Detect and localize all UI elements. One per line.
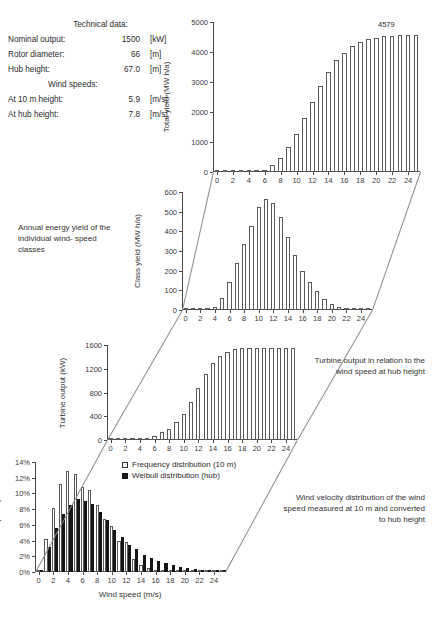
y-tick-mark xyxy=(210,52,213,53)
x-tick-mark xyxy=(186,310,187,313)
x-tick-mark xyxy=(273,310,274,313)
tech-label-rotor-diameter: Rotor diameter: xyxy=(8,50,100,59)
y-tick-label: 200 xyxy=(143,266,177,275)
x-tick-mark xyxy=(328,172,329,175)
x-tick-mark xyxy=(313,172,314,175)
y-tick-mark xyxy=(104,416,107,417)
x-tick-mark xyxy=(155,440,156,443)
x-tick-mark xyxy=(265,172,266,175)
bar xyxy=(374,38,379,172)
x-tick-mark xyxy=(376,172,377,175)
x-tick-mark xyxy=(361,310,362,313)
bar xyxy=(406,35,411,172)
tech-row-nominal-output: Nominal output: 1500 [kW] xyxy=(8,35,193,50)
tech-label-hub-height: Hub height: xyxy=(8,65,100,74)
x-tick-mark xyxy=(317,310,318,313)
bar xyxy=(174,422,178,440)
y-tick-label: 400 xyxy=(68,412,102,421)
y-tick-label: 2000 xyxy=(174,108,208,117)
y-tick-label: 300 xyxy=(143,247,177,256)
bar xyxy=(160,432,164,440)
bar xyxy=(150,558,153,572)
bar xyxy=(359,308,363,310)
x-tick-mark xyxy=(125,440,126,443)
bar xyxy=(216,570,219,572)
bar xyxy=(128,545,131,573)
y-tick-label: 3000 xyxy=(174,78,208,87)
bar xyxy=(204,374,208,441)
bar xyxy=(235,263,239,310)
bar xyxy=(262,170,267,172)
bar xyxy=(326,72,331,173)
bar xyxy=(40,570,43,572)
y-tick-mark xyxy=(32,493,35,494)
x-tick-mark xyxy=(213,440,214,443)
legend-swatch-frequency xyxy=(122,462,128,468)
bar xyxy=(191,308,195,310)
x-tick-mark xyxy=(39,572,40,575)
y-tick-mark xyxy=(32,509,35,510)
x-tick-mark xyxy=(198,440,199,443)
x-tick-mark xyxy=(303,310,304,313)
bar xyxy=(123,438,127,440)
bar xyxy=(201,570,204,572)
y-tick-label: 1200 xyxy=(68,364,102,373)
x-tick-mark xyxy=(346,310,347,313)
bar xyxy=(300,271,304,310)
bar xyxy=(227,282,231,310)
x-tick-mark xyxy=(199,572,200,575)
wind-speeds-heading-text: Wind speeds: xyxy=(48,80,98,89)
bar xyxy=(291,348,295,440)
bar xyxy=(358,42,363,172)
note-turbine-output: Turbine output in relation to the wind s… xyxy=(305,355,425,377)
legend-label-frequency: Frequency distribution (10 m) xyxy=(132,459,236,470)
y-tick-label: 0 xyxy=(68,436,102,445)
bar xyxy=(196,388,200,440)
bar xyxy=(270,165,275,172)
x-tick-mark xyxy=(233,172,234,175)
x-tick-mark xyxy=(281,172,282,175)
x-tick-mark xyxy=(126,572,127,575)
bar xyxy=(286,237,290,310)
plot-frame xyxy=(182,192,372,310)
y-tick-label: 0 xyxy=(174,168,208,177)
bar xyxy=(186,568,189,572)
bar xyxy=(194,569,197,572)
bar xyxy=(143,555,146,572)
bar xyxy=(277,348,281,440)
bar xyxy=(318,86,323,172)
y-tick-mark xyxy=(179,290,182,291)
y-axis-title: Total yield (MW h/a) xyxy=(162,62,171,133)
x-tick-mark xyxy=(257,440,258,443)
bar xyxy=(69,505,72,572)
x-tick-mark xyxy=(228,440,229,443)
x-tick-mark xyxy=(332,310,333,313)
x-tick-mark xyxy=(271,440,272,443)
bar xyxy=(109,438,113,440)
bar xyxy=(184,308,188,310)
x-tick-mark xyxy=(288,310,289,313)
bar xyxy=(218,356,222,440)
note-annual-energy: Annual energy yield of the individual wi… xyxy=(18,222,118,255)
bar xyxy=(271,203,275,310)
chart-total-yield: 0100020003000400050000246810121416182022… xyxy=(213,22,420,172)
y-tick-label: 1000 xyxy=(174,138,208,147)
y-tick-label: 12% xyxy=(0,473,30,482)
y-tick-mark xyxy=(179,231,182,232)
y-tick-label: 1600 xyxy=(68,341,102,350)
bar xyxy=(322,299,326,310)
bar xyxy=(77,499,80,572)
bar xyxy=(308,282,312,310)
x-tick-mark xyxy=(360,172,361,175)
bar xyxy=(414,35,419,172)
bar xyxy=(182,414,186,440)
bar xyxy=(106,520,109,572)
tech-value-hub-height: 67.0 xyxy=(100,65,150,74)
x-tick-mark xyxy=(200,310,201,313)
x-tick-mark xyxy=(68,572,69,575)
bar xyxy=(334,60,339,172)
legend-label-weibull: Weibull distribution (hub) xyxy=(132,470,220,481)
note-wind-velocity: Wind velocity distribution of the wind s… xyxy=(275,492,425,525)
y-tick-label: 0 xyxy=(143,306,177,315)
bar xyxy=(278,158,283,172)
